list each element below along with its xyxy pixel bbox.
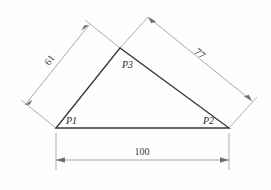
vertex-label-p3: P3	[121, 59, 133, 70]
extension-line-p2-right	[229, 97, 257, 128]
dimension-label-left: 61	[42, 52, 57, 67]
triangle-diagram: 100 61 77	[0, 0, 271, 190]
dimension-group-bottom: 100	[56, 133, 229, 170]
dimension-line-left	[25, 25, 89, 105]
arrowhead-bottom-left	[56, 157, 65, 163]
arrowhead-bottom-right	[220, 157, 229, 163]
vertex-labels: P1 P2 P3	[65, 59, 214, 126]
vertex-label-p2: P2	[202, 115, 214, 126]
figure-canvas: 100 61 77	[0, 0, 271, 190]
dimension-label-bottom: 100	[135, 146, 150, 157]
extension-line-p3-right	[120, 17, 148, 48]
dimension-label-right: 77	[193, 46, 208, 61]
vertex-label-p1: P1	[65, 115, 77, 126]
dimension-group-right: 77	[120, 17, 257, 128]
dimension-group-left: 61	[21, 20, 120, 128]
extension-line-p3-left	[85, 20, 120, 48]
